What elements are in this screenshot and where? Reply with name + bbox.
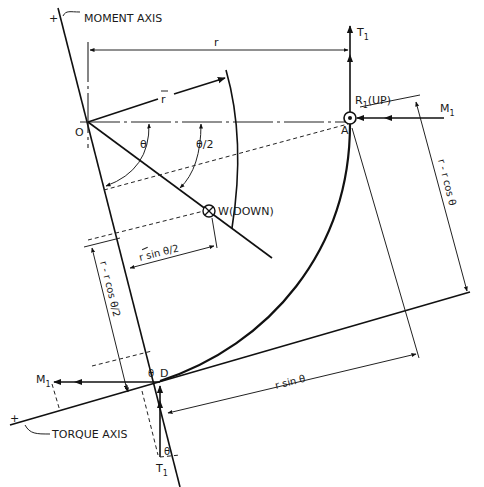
moment-m1-left: M1 xyxy=(36,373,160,411)
theta-label: θ xyxy=(140,138,147,151)
dimension-r-bar: r xyxy=(88,78,225,122)
reaction-r1: R1(UP) A xyxy=(341,94,391,137)
moment-axis-label: MOMENT AXIS xyxy=(84,12,162,25)
theta-t1-label: θ xyxy=(164,446,170,457)
r-bar-label: r xyxy=(161,93,166,106)
m1-left-label: M1 xyxy=(36,373,51,389)
t1-top-label: T1 xyxy=(356,26,369,42)
r-sin-theta-label: r sin θ xyxy=(274,373,307,391)
m1-right-label: M1 xyxy=(440,102,455,118)
rbar-sin-theta-half-label: r sin θ/2 xyxy=(138,242,180,263)
torque-axis-label: TORQUE AXIS xyxy=(51,428,127,441)
dimension-r-minus-r-cos-theta: r - r cos θ xyxy=(360,95,467,291)
point-a-label: A xyxy=(341,124,349,137)
point-o-label: O xyxy=(75,126,84,139)
point-d-label: D xyxy=(160,367,168,380)
torque-axis: + TORQUE AXIS xyxy=(10,292,470,441)
dashed-line-d-upper xyxy=(92,351,152,366)
dimension-r: r xyxy=(90,36,348,50)
r-minus-r-cos-theta-label: r - r cos θ xyxy=(436,158,458,207)
theta-d-label: θ xyxy=(148,368,154,379)
curved-beam-diagram: + MOMENT AXIS + TORQUE AXIS r O r θ θ/2 xyxy=(0,0,484,487)
moment-axis-leader xyxy=(63,12,80,16)
t1-bottom-label: T1 xyxy=(155,462,168,478)
dimension-rbar-sin-theta-half: r sin θ/2 xyxy=(130,218,217,268)
theta-half-label: θ/2 xyxy=(196,138,213,151)
torque-axis-leader xyxy=(25,425,50,434)
bisector-line xyxy=(88,122,272,258)
dashed-line-a-1 xyxy=(104,124,348,190)
dimension-r-label: r xyxy=(214,36,219,49)
theta-half-angle: θ/2 xyxy=(180,124,213,188)
theta-angle: θ xyxy=(106,124,149,186)
weight-w: W(DOWN) xyxy=(203,205,274,218)
dashed-line-w xyxy=(88,210,208,240)
torque-axis-sign: + xyxy=(10,412,19,425)
torque-axis-line xyxy=(10,292,470,425)
moment-axis-sign: + xyxy=(49,12,58,25)
r1-label: R1(UP) xyxy=(355,94,391,110)
weight-label: W(DOWN) xyxy=(218,205,274,218)
